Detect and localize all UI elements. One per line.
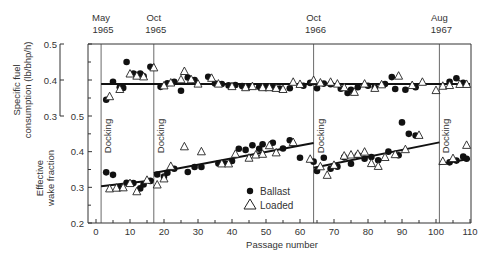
svg-text:0.4: 0.4: [71, 146, 84, 157]
svg-text:0.3: 0.3: [44, 111, 57, 122]
ballast-point: [297, 154, 304, 161]
ballast-point: [154, 171, 161, 178]
ballast-point: [198, 164, 205, 171]
svg-text:50: 50: [261, 226, 272, 237]
event-date-year: 1965: [145, 24, 166, 35]
svg-text:90: 90: [397, 226, 408, 237]
trend-line: [154, 143, 314, 173]
svg-text:0.2: 0.2: [71, 218, 84, 229]
svg-text:70: 70: [329, 226, 340, 237]
ballast-point: [287, 85, 294, 92]
event-date-year: 1966: [305, 24, 326, 35]
loaded-point: [177, 75, 185, 83]
svg-text:0.5: 0.5: [44, 39, 57, 50]
legend: Ballast Loaded: [244, 186, 293, 211]
event-date-year: 1967: [431, 24, 452, 35]
chart-svg: 01020304050607080901001100.30.40.50.20.3…: [0, 0, 491, 266]
event-date-month: Oct: [306, 12, 321, 23]
loaded-point: [463, 141, 471, 149]
loaded-point: [197, 147, 205, 155]
svg-text:30: 30: [193, 226, 204, 237]
ballast-point: [103, 169, 110, 176]
ballast-point: [385, 148, 392, 155]
svg-text:0.5: 0.5: [71, 111, 84, 122]
svg-text:20: 20: [159, 226, 170, 237]
event-date-month: May: [92, 12, 110, 23]
ballast-point: [321, 154, 328, 161]
ballast-point: [392, 86, 399, 93]
ballast-point: [185, 169, 192, 176]
svg-text:0.4: 0.4: [44, 75, 57, 86]
ballast-marker-icon: [247, 188, 253, 194]
loaded-point: [418, 78, 426, 86]
event-date-month: Aug: [431, 12, 448, 23]
loaded-point: [327, 78, 335, 86]
svg-text:110: 110: [462, 226, 477, 237]
loaded-point: [395, 72, 403, 80]
docking-label: Docking: [155, 119, 166, 153]
docking-label: Docking: [440, 119, 451, 153]
ballast-point: [249, 142, 256, 149]
svg-text:60: 60: [295, 226, 306, 237]
ballast-point: [453, 75, 460, 82]
ballast-point: [178, 88, 185, 95]
svg-text:80: 80: [363, 226, 374, 237]
loaded-point: [180, 142, 188, 150]
svg-text:0: 0: [93, 226, 98, 237]
ballast-point: [406, 131, 413, 138]
legend-label-loaded: Loaded: [260, 200, 293, 211]
ballast-point: [164, 169, 171, 176]
loaded-marker-icon: [244, 199, 256, 209]
ballast-point: [110, 79, 117, 86]
svg-text:0.3: 0.3: [71, 182, 84, 193]
loaded-point: [361, 148, 369, 156]
ballast-point: [399, 119, 406, 126]
ballast-point: [463, 156, 470, 163]
ballast-point: [259, 141, 266, 148]
event-date-year: 1965: [93, 24, 114, 35]
loaded-point: [180, 67, 188, 75]
svg-text:100: 100: [428, 226, 444, 237]
loaded-point: [289, 78, 297, 86]
axes: 01020304050607080901001100.30.40.50.20.3…: [11, 39, 478, 238]
ballast-point: [123, 59, 130, 66]
ballast-point: [110, 172, 117, 179]
loaded-point: [367, 159, 375, 167]
docking-label: Docking: [102, 119, 113, 153]
legend-label-ballast: Ballast: [260, 186, 290, 197]
docking-label: Docking: [315, 119, 326, 153]
chart-container: 01020304050607080901001100.30.40.50.20.3…: [0, 0, 491, 266]
loaded-point: [439, 157, 447, 165]
svg-text:40: 40: [227, 226, 238, 237]
ballast-point: [402, 86, 409, 93]
wake-y-axis-label: Effectivewake fraction: [34, 150, 56, 207]
ballast-point: [242, 147, 249, 154]
ballast-point: [361, 156, 368, 163]
ballast-point: [191, 164, 198, 171]
svg-text:10: 10: [125, 226, 136, 237]
ballast-point: [280, 145, 287, 152]
event-date-month: Oct: [146, 12, 161, 23]
x-axis-label: Passage number: [246, 239, 318, 250]
loaded-point: [432, 86, 440, 94]
ballast-point: [348, 160, 355, 167]
loaded-point: [106, 92, 114, 100]
sfc-y-axis-label: Specific fuelconsumption (lb/bhp/h): [11, 42, 33, 139]
